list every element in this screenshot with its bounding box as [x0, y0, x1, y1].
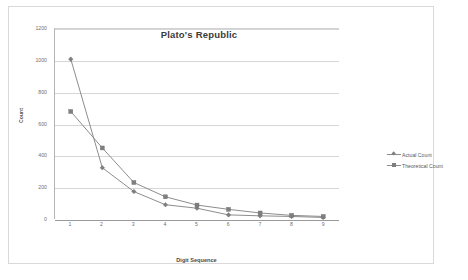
data-point-marker: [321, 214, 325, 218]
y-axis-tick-label: 600: [38, 121, 47, 127]
data-point-marker: [100, 146, 104, 150]
legend-entry[interactable]: Theoretical Count: [387, 160, 468, 171]
legend-label: Actual Count: [401, 152, 432, 158]
series-layer: [55, 29, 339, 219]
data-point-marker: [132, 181, 136, 185]
y-axis-tick-label: 0: [44, 216, 47, 222]
legend-marker-icon: [387, 150, 401, 159]
y-axis-tick-labels: 020040060080010001200: [9, 28, 51, 219]
x-axis-tick-label: 1: [68, 221, 71, 227]
chart-legend: Actual CountTheoretical Count: [387, 149, 468, 171]
data-point-marker: [163, 195, 167, 199]
data-point-marker: [227, 207, 231, 211]
data-point-marker: [290, 213, 294, 217]
x-axis-title: Digit Sequence: [54, 257, 339, 263]
data-point-marker: [258, 211, 262, 215]
data-point-marker: [195, 203, 199, 207]
x-axis-tick-label: 6: [227, 221, 230, 227]
plot-area: [54, 28, 339, 219]
chart-frame: Plato's Republic Count 02004006008001000…: [8, 6, 434, 264]
y-axis-tick-label: 1200: [35, 25, 47, 31]
x-axis-tick-label: 5: [195, 221, 198, 227]
legend-entry[interactable]: Actual Count: [387, 149, 468, 160]
x-axis-tick-label: 9: [322, 221, 325, 227]
legend-label: Theoretical Count: [401, 163, 443, 169]
y-axis-tick-label: 200: [38, 184, 47, 190]
data-point-marker: [163, 202, 168, 207]
x-axis-tick-label: 4: [163, 221, 166, 227]
data-point-marker: [69, 109, 73, 113]
data-point-marker: [226, 213, 231, 218]
x-axis-tick-label: 8: [290, 221, 293, 227]
x-axis-tick-label: 7: [258, 221, 261, 227]
x-axis-tick-labels: 123456789: [54, 221, 339, 233]
series-actual-count: [68, 57, 325, 220]
x-axis-tick-label: 2: [100, 221, 103, 227]
series-line: [71, 59, 323, 217]
y-axis-tick-label: 1000: [35, 57, 47, 63]
y-axis-tick-label: 800: [38, 89, 47, 95]
x-axis-tick-label: 3: [132, 221, 135, 227]
y-axis-tick-label: 400: [38, 152, 47, 158]
data-point-marker: [68, 57, 73, 62]
series-theoretical-count: [69, 109, 325, 218]
legend-marker-icon: [387, 161, 401, 170]
series-line: [71, 111, 323, 216]
